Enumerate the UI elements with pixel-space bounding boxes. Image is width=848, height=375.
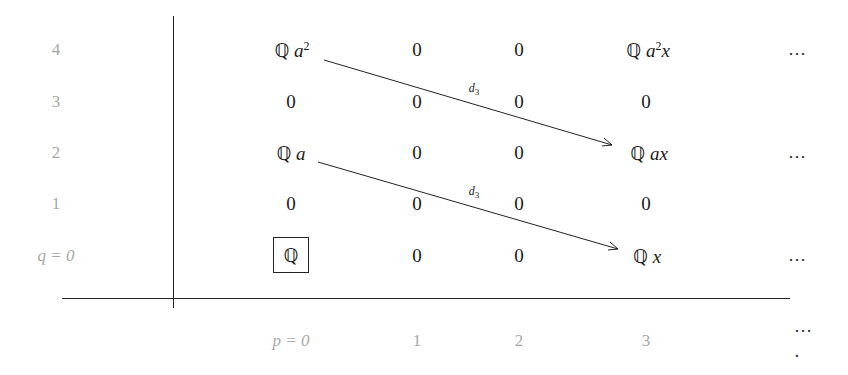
differential-label-lower: d3	[469, 184, 480, 200]
differential-arrow-lower	[318, 162, 618, 249]
differential-label-upper: d3	[469, 81, 480, 97]
differential-arrow-upper	[324, 60, 612, 145]
arrowhead-lower-icon	[608, 242, 618, 250]
differential-arrows	[0, 0, 848, 375]
